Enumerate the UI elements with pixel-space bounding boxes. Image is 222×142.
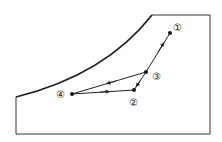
arrow-icon (137, 81, 140, 86)
arrow-icon (108, 81, 116, 83)
label-4: ④ (56, 89, 65, 100)
point-4 (70, 92, 74, 96)
diagram: ① ② ③ ④ (0, 0, 222, 142)
label-3: ③ (152, 71, 161, 82)
segment-3-1 (146, 33, 170, 72)
arrow-icon (100, 92, 108, 93)
label-2: ② (129, 97, 138, 108)
point-3 (144, 70, 148, 74)
arrow-icon (158, 44, 163, 52)
label-1: ① (173, 22, 182, 33)
point-2 (132, 88, 136, 92)
curve (16, 15, 152, 97)
point-1 (168, 31, 172, 35)
